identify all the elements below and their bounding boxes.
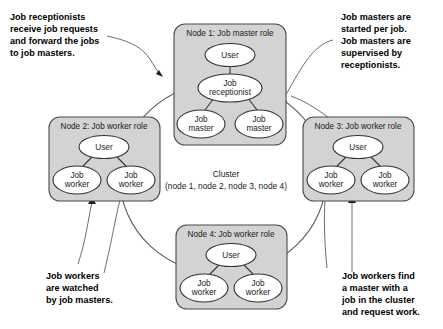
callout-top-right-line-1: Job masters are	[341, 12, 411, 22]
callout-top-left: Job receptionists receive job requests a…	[10, 12, 99, 58]
cluster-diagram-svg: Node 1: Job master role User Job recepti…	[0, 0, 443, 329]
node2-worker-left[interactable]: Job worker	[53, 166, 101, 194]
leader-line-bottom-left	[78, 202, 92, 264]
node1-user-label: User	[221, 51, 239, 60]
node3-worker-right-label-line1: Job	[378, 171, 392, 180]
node4-worker-left[interactable]: Job worker	[180, 274, 228, 302]
node1-master-left-label-line1: Job	[194, 115, 208, 124]
node2-worker-right[interactable]: Job worker	[107, 166, 155, 194]
node3-worker-left-label-line2: worker	[318, 180, 344, 189]
node1-master-right-label-line1: Job	[252, 115, 266, 124]
node3-worker-right-label-line2: worker	[372, 180, 398, 189]
callout-bottom-right-line-4: and request work.	[342, 307, 420, 317]
callout-bottom-right-line-1: Job workers find	[342, 271, 415, 281]
node1-master-left-label-line2: master	[188, 124, 213, 133]
node2-worker-left-label-line2: worker	[64, 180, 90, 189]
node1-receptionist-label-line2: receptionist	[209, 88, 252, 97]
node3-title: Node 3: Job worker role	[315, 122, 402, 131]
node2-user[interactable]: User	[79, 136, 129, 159]
node2-worker-left-label-line1: Job	[70, 171, 84, 180]
leader-line-top-right	[283, 40, 333, 100]
arrowhead-top-left	[156, 70, 163, 77]
cluster-center-label: Cluster (node 1, node 2, node 3, node 4)	[165, 169, 287, 191]
callout-bottom-right-line-3: job in the cluster	[341, 295, 415, 305]
leader-line-top-left	[107, 36, 160, 74]
node2-user-label: User	[95, 143, 113, 152]
callout-bottom-left: Job workers are watched by job masters.	[46, 271, 113, 305]
node4-worker-left-label-line1: Job	[197, 279, 211, 288]
node1-master-right[interactable]: Job master	[235, 110, 283, 138]
node3-worker-left[interactable]: Job worker	[307, 166, 355, 194]
node1-master-right-label-line2: master	[246, 124, 271, 133]
node-box-node4[interactable]: Node 4: Job worker role User Job worker …	[176, 225, 287, 309]
node-box-node2[interactable]: Node 2: Job worker role User Job worker …	[49, 117, 160, 201]
node1-receptionist-label-line1: Job	[223, 79, 237, 88]
node2-worker-right-label-line2: worker	[118, 180, 144, 189]
node4-worker-right-label-line1: Job	[251, 279, 265, 288]
callout-bottom-left-line-3: by job masters.	[46, 295, 113, 305]
node-box-node3[interactable]: Node 3: Job worker role User Job worker …	[303, 117, 414, 201]
node3-worker-right[interactable]: Job worker	[361, 166, 409, 194]
callout-top-left-line-1: Job receptionists	[10, 12, 85, 22]
node4-worker-right[interactable]: Job worker	[234, 274, 282, 302]
diagram-canvas: Node 1: Job master role User Job recepti…	[0, 0, 443, 329]
cluster-label-main: Cluster	[213, 169, 240, 179]
leader-line-bottom-right-secondary	[324, 200, 327, 268]
node-box-node1[interactable]: Node 1: Job master role User Job recepti…	[174, 24, 286, 145]
callout-top-right-line-5: receptionists.	[341, 60, 400, 70]
node1-receptionist[interactable]: Job receptionist	[198, 74, 262, 102]
node1-title: Node 1: Job master role	[186, 29, 274, 38]
node3-worker-left-label-line1: Job	[324, 171, 338, 180]
callout-top-left-line-4: to job masters.	[10, 48, 75, 58]
callout-bottom-right-line-2: a master with a	[342, 283, 409, 293]
node4-worker-left-label-line2: worker	[191, 288, 217, 297]
node3-user[interactable]: User	[333, 136, 383, 159]
node2-worker-right-label-line1: Job	[124, 171, 138, 180]
callout-top-right-line-3: Job masters are	[341, 36, 411, 46]
node1-user[interactable]: User	[205, 44, 255, 67]
node3-user-label: User	[349, 143, 367, 152]
node4-user-label: User	[222, 251, 240, 260]
callout-top-right-line-2: started per job.	[341, 24, 407, 34]
callout-bottom-right: Job workers find a master with a job in …	[341, 271, 420, 317]
node4-worker-right-label-line2: worker	[245, 288, 271, 297]
node1-master-left[interactable]: Job master	[177, 110, 225, 138]
callout-top-right-line-4: supervised by	[341, 48, 403, 58]
callout-bottom-left-line-2: are watched	[46, 283, 99, 293]
callout-top-left-line-2: receive job requests	[10, 24, 98, 34]
cluster-label-sub: (node 1, node 2, node 3, node 4)	[165, 181, 287, 191]
node2-title: Node 2: Job worker role	[61, 122, 148, 131]
callout-top-left-line-3: and forward the jobs	[10, 36, 99, 46]
node4-title: Node 4: Job worker role	[188, 230, 275, 239]
node4-user[interactable]: User	[206, 244, 256, 267]
leader-line-bottom-left-secondary	[104, 200, 120, 273]
callout-top-right: Job masters are started per job. Job mas…	[341, 12, 411, 70]
callout-bottom-left-line-1: Job workers	[46, 271, 100, 281]
